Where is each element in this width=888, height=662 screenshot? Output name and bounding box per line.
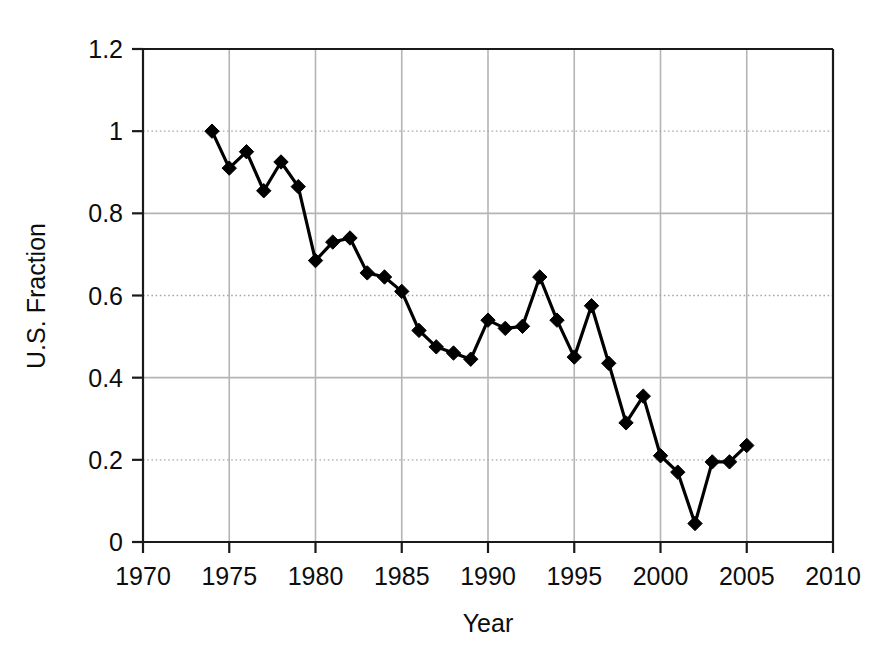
y-axis-title: U.S. Fraction xyxy=(22,223,50,369)
y-tick-label-1.2: 1.2 xyxy=(88,35,123,63)
x-tick-label-1975: 1975 xyxy=(201,562,257,590)
x-axis-title: Year xyxy=(463,609,514,637)
line-chart-figure: 00.20.40.60.811.2 1970197519801985199019… xyxy=(0,0,888,662)
y-tick-label-0.6: 0.6 xyxy=(88,282,123,310)
x-tick-label-1970: 1970 xyxy=(115,562,171,590)
y-tick-label-1: 1 xyxy=(109,117,123,145)
x-tick-label-1985: 1985 xyxy=(374,562,430,590)
x-tick-label-2010: 2010 xyxy=(805,562,861,590)
x-axis-tick-labels: 197019751980198519901995200020052010 xyxy=(115,562,861,590)
x-tick-label-1995: 1995 xyxy=(546,562,602,590)
x-tick-label-2000: 2000 xyxy=(633,562,689,590)
y-tick-label-0.4: 0.4 xyxy=(88,364,123,392)
y-tick-label-0.8: 0.8 xyxy=(88,199,123,227)
x-tick-label-1980: 1980 xyxy=(288,562,344,590)
x-tick-label-2005: 2005 xyxy=(719,562,775,590)
y-tick-label-0: 0 xyxy=(109,528,123,556)
chart-page: 00.20.40.60.811.2 1970197519801985199019… xyxy=(0,0,888,662)
x-tick-label-1990: 1990 xyxy=(460,562,516,590)
chart-canvas: 00.20.40.60.811.2 1970197519801985199019… xyxy=(0,0,888,662)
y-tick-label-0.2: 0.2 xyxy=(88,446,123,474)
